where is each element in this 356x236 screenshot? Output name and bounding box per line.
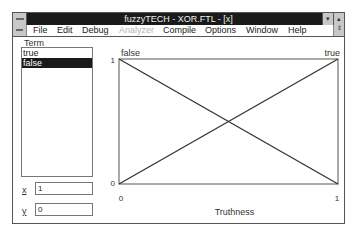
membership-chart: false true 1 0 0 1 Truthness	[13, 13, 346, 225]
y-tick-1: 1	[111, 56, 116, 65]
legend-false: false	[121, 48, 140, 58]
y-tick-0: 0	[111, 179, 116, 188]
fuzzytech-window: fuzzyTECH - XOR.FTL - [x] ▾ ▴ File Edit …	[12, 12, 345, 224]
x-tick-0: 0	[119, 194, 124, 203]
x-axis-label: Truthness	[215, 207, 255, 217]
legend-true: true	[324, 48, 340, 58]
x-tick-1: 1	[335, 194, 340, 203]
